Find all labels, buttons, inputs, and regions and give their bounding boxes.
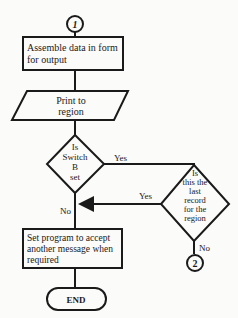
switch-yes-label: Yes — [114, 153, 128, 163]
switch-b-decision: Is Switch B set — [47, 135, 104, 193]
assemble-data-process: Assemble data in form for output — [23, 37, 123, 70]
assemble-line-2: for output — [27, 54, 67, 65]
end-label: END — [66, 295, 86, 305]
set-program-line-3: required — [27, 255, 59, 265]
last-line-6: region — [184, 213, 206, 223]
print-line-1: Print to — [56, 95, 86, 106]
last-record-decision: Is this the last record for the region — [161, 165, 229, 241]
switch-line-1: Is — [72, 142, 79, 152]
end-terminal: END — [47, 288, 106, 310]
last-yes-label: Yes — [139, 191, 153, 201]
exit-connector: 2 — [187, 255, 203, 271]
switch-line-2: Switch — [62, 152, 88, 162]
start-connector: 1 — [67, 16, 83, 32]
set-program-line-2: another message when — [27, 244, 113, 254]
flowchart: 1 Assemble data in form for output Print… — [0, 0, 238, 318]
switch-line-3: B — [72, 162, 78, 172]
switch-line-4: set — [70, 172, 80, 182]
exit-connector-label: 2 — [193, 258, 198, 269]
set-program-line-1: Set program to accept — [27, 233, 110, 243]
print-to-region-io: Print to region — [12, 91, 128, 120]
last-no-label: No — [199, 243, 210, 253]
start-connector-label: 1 — [73, 19, 78, 30]
print-line-2: region — [58, 106, 84, 117]
set-program-process: Set program to accept another message wh… — [23, 229, 122, 268]
edge-switch-yes — [104, 164, 194, 166]
switch-no-label: No — [60, 206, 71, 216]
assemble-line-1: Assemble data in form — [27, 42, 118, 53]
